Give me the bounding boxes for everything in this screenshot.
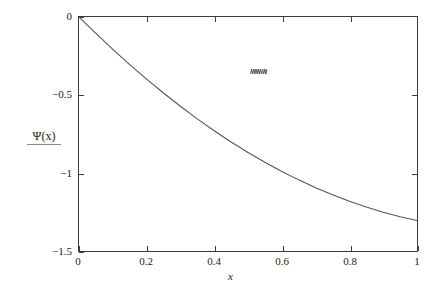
squiggle-annotation-icon: [250, 67, 268, 76]
x-tick-0.2: [147, 246, 148, 251]
data-curve-psi: [79, 17, 417, 221]
y-tick--0.5: [79, 95, 84, 96]
y-tick-right--0.5: [412, 95, 417, 96]
figure-canvas: 0 0.2 0.4 0.6 0.8 1 0 −0.5 −1 −1.5 x Ψ(x…: [0, 0, 441, 289]
y-tick-right--1: [412, 174, 417, 175]
x-ticklabel-0.8: 0.8: [330, 255, 370, 267]
curve-svg: [79, 17, 417, 251]
x-ticklabel-0.6: 0.6: [262, 255, 302, 267]
x-tick-0: [79, 246, 80, 251]
x-tick-top-0.8: [351, 17, 352, 22]
y-tick--1: [79, 174, 84, 175]
x-tick-0.4: [215, 246, 216, 251]
x-ticklabel-0.2: 0.2: [126, 255, 166, 267]
x-tick-1: [418, 246, 419, 251]
plot-area: [78, 16, 418, 252]
y-ticklabel--1.5: −1.5: [28, 245, 72, 257]
y-tick--1.5: [79, 252, 84, 253]
y-ticklabel--0.5: −0.5: [28, 88, 72, 100]
y-ticklabel-0: 0: [28, 10, 72, 22]
y-tick-0: [79, 17, 84, 18]
x-ticklabel-0.4: 0.4: [194, 255, 234, 267]
y-axis-label: Ψ(x): [18, 130, 70, 145]
x-tick-top-0.2: [147, 17, 148, 22]
x-tick-0.6: [283, 246, 284, 251]
x-tick-0.8: [351, 246, 352, 251]
x-axis-label: x: [228, 270, 233, 282]
x-tick-top-0.4: [215, 17, 216, 22]
x-ticklabel-1: 1: [397, 255, 437, 267]
y-axis-label-text: Ψ(x): [18, 130, 70, 143]
y-axis-label-underline: [27, 144, 61, 145]
y-ticklabel--1: −1: [28, 167, 72, 179]
x-tick-top-0.6: [283, 17, 284, 22]
